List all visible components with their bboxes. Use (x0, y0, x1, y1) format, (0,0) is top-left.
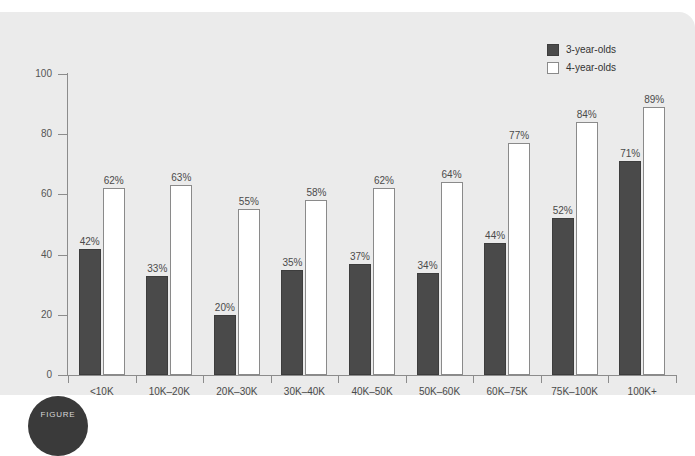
bar-value-label: 34% (411, 260, 445, 271)
x-axis-category-label: 100K+ (608, 386, 676, 397)
bar-value-label: 35% (275, 257, 309, 268)
figure-badge-label: FIGURE (28, 410, 88, 419)
x-axis-category-label: 30K–40K (271, 386, 339, 397)
bar-value-label: 62% (367, 175, 401, 186)
y-axis-tick (58, 194, 68, 195)
bar (373, 188, 395, 375)
x-axis-line (67, 375, 677, 376)
legend-swatch (547, 62, 559, 74)
bar (619, 161, 641, 375)
bar-value-label: 71% (613, 148, 647, 159)
y-axis-tick-label: 40 (4, 249, 52, 260)
bar (281, 270, 303, 375)
x-axis-tick (608, 376, 609, 383)
legend-item: 4-year-olds (547, 60, 677, 75)
y-axis-tick-label: 0 (4, 369, 52, 380)
bar-value-label: 42% (73, 236, 107, 247)
x-axis-category-label: 60K–75K (473, 386, 541, 397)
x-axis-tick (136, 376, 137, 383)
x-axis-category-label: 20K–30K (203, 386, 271, 397)
bar (349, 264, 371, 375)
bar (417, 273, 439, 375)
bar (146, 276, 168, 375)
y-axis-tick (58, 74, 68, 75)
bar-value-label: 77% (502, 130, 536, 141)
x-axis-tick (473, 376, 474, 383)
bar (79, 249, 101, 375)
plot-area: 42%62%33%63%20%55%35%58%37%62%34%64%44%7… (68, 74, 676, 375)
bar-value-label: 20% (208, 302, 242, 313)
bar-value-label: 37% (343, 251, 377, 262)
bar-value-label: 58% (299, 187, 333, 198)
x-axis-tick (541, 376, 542, 383)
y-axis-tick-label: 80 (4, 128, 52, 139)
x-axis-category-label: <10K (68, 386, 136, 397)
y-axis-tick-label-wrap: 80 (0, 134, 52, 135)
x-axis-category-label: 40K–50K (338, 386, 406, 397)
bar-value-label: 64% (435, 169, 469, 180)
bar (643, 107, 665, 375)
legend-swatch (547, 44, 559, 56)
bar-value-label: 44% (478, 230, 512, 241)
bar (508, 143, 530, 375)
bar-value-label: 33% (140, 263, 174, 274)
bar-value-label: 55% (232, 196, 266, 207)
y-axis-tick (58, 375, 68, 376)
x-axis-tick (271, 376, 272, 383)
x-axis-tick (676, 376, 677, 383)
bar (484, 243, 506, 375)
y-axis-tick-label: 60 (4, 188, 52, 199)
x-axis-tick (203, 376, 204, 383)
bar-value-label: 62% (97, 175, 131, 186)
bar (238, 209, 260, 375)
bar (552, 218, 574, 375)
y-axis-tick-label-wrap: 100 (0, 74, 52, 75)
y-axis-tick-label: 100 (4, 68, 52, 79)
x-axis-tick (406, 376, 407, 383)
bar (576, 122, 598, 375)
bar (305, 200, 327, 375)
bar (103, 188, 125, 375)
bar-value-label: 89% (637, 94, 671, 105)
x-axis-tick (68, 376, 69, 383)
x-axis-tick (338, 376, 339, 383)
bar-value-label: 84% (570, 109, 604, 120)
chart-panel: 020406080100 42%62%33%63%20%55%35%58%37%… (0, 12, 695, 395)
chart-legend: 3-year-olds4-year-olds (547, 42, 677, 78)
figure-badge: FIGURE (28, 396, 88, 456)
y-axis-tick (58, 255, 68, 256)
x-axis-category-label: 50K–60K (406, 386, 474, 397)
bar (170, 185, 192, 375)
bar-value-label: 52% (546, 205, 580, 216)
y-axis-tick-label: 20 (4, 309, 52, 320)
y-axis-tick-label-wrap: 20 (0, 315, 52, 316)
bar (441, 182, 463, 375)
y-axis-tick (58, 315, 68, 316)
y-axis-tick (58, 134, 68, 135)
y-axis-tick-label-wrap: 0 (0, 375, 52, 376)
x-axis-category-label: 10K–20K (136, 386, 204, 397)
legend-label: 3-year-olds (566, 44, 616, 55)
x-axis-category-label: 75K–100K (541, 386, 609, 397)
legend-item: 3-year-olds (547, 42, 677, 57)
bar-value-label: 63% (164, 172, 198, 183)
legend-label: 4-year-olds (566, 62, 616, 73)
bar (214, 315, 236, 375)
y-axis-tick-label-wrap: 60 (0, 194, 52, 195)
y-axis-tick-label-wrap: 40 (0, 255, 52, 256)
